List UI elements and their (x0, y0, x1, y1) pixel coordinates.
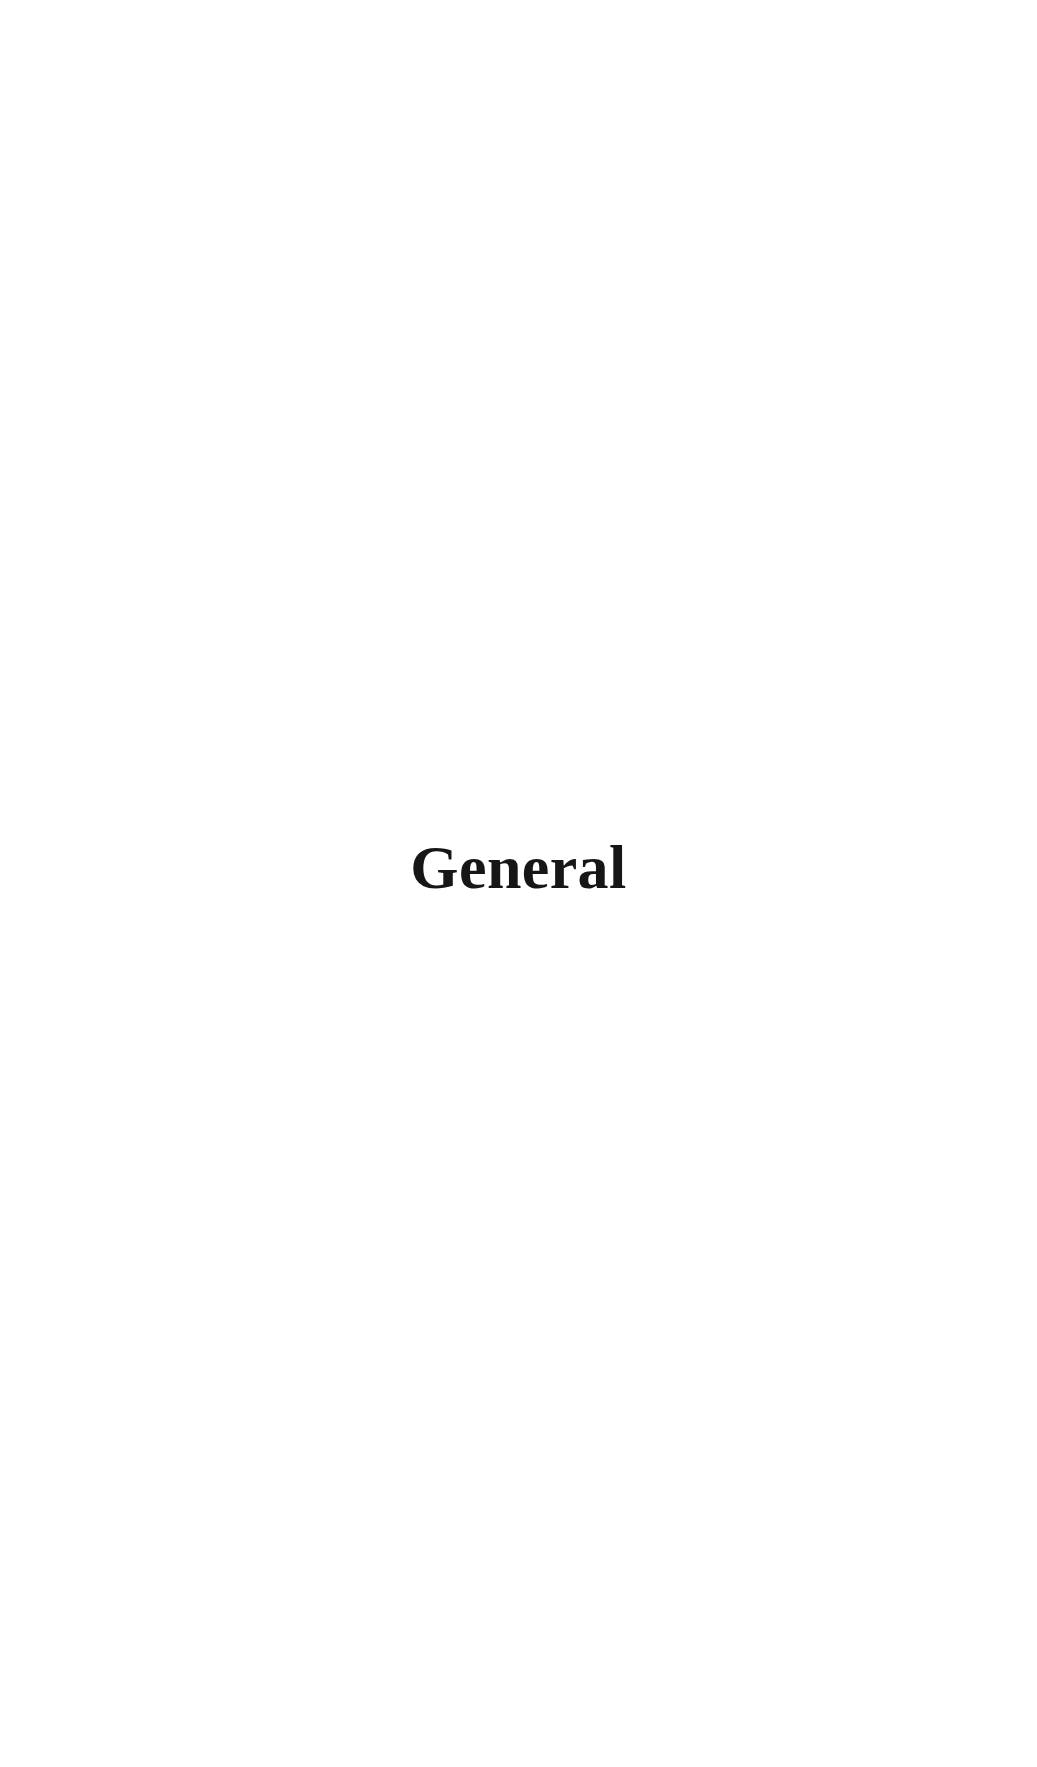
part-title: General (410, 836, 626, 898)
part-title-block: General (0, 836, 1037, 898)
scanned-page: General (0, 0, 1037, 1767)
